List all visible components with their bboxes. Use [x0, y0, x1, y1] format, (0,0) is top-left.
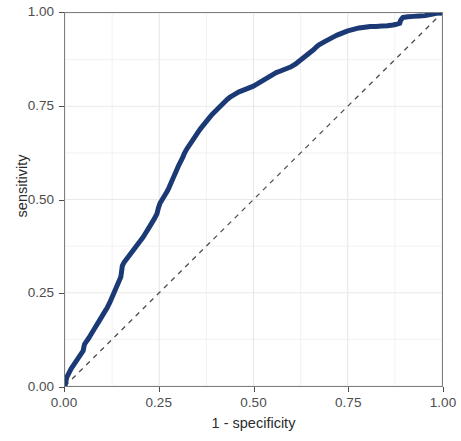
y-tick-label: 1.00 [8, 5, 54, 19]
x-tick-label: 0.75 [318, 396, 378, 410]
x-axis-title: 1 - specificity [64, 415, 443, 431]
y-tick-label: 0.00 [8, 380, 54, 394]
x-tick-mark [159, 387, 160, 392]
roc-chart: 0.000.250.500.751.00 1 - specificity sen… [0, 0, 461, 441]
y-axis-title: sensitivity [14, 86, 30, 286]
y-tick-mark [59, 106, 64, 107]
x-tick-mark [64, 387, 65, 392]
y-tick-mark [59, 293, 64, 294]
plot-panel [64, 12, 443, 387]
x-tick-mark [348, 387, 349, 392]
x-tick-mark [443, 387, 444, 392]
x-tick-mark [254, 387, 255, 392]
plot-svg [65, 13, 442, 386]
x-tick-label: 0.50 [224, 396, 284, 410]
y-tick-mark [59, 12, 64, 13]
y-tick-label: 0.25 [8, 287, 54, 301]
x-tick-label: 0.00 [34, 396, 94, 410]
y-tick-mark [59, 200, 64, 201]
x-tick-label: 1.00 [413, 396, 461, 410]
x-tick-label: 0.25 [129, 396, 189, 410]
